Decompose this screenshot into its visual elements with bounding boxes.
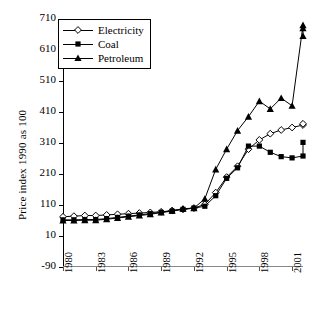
y-tick-label: 210 [40,166,57,178]
data-point [245,113,252,120]
data-point [289,155,294,160]
legend-item-coal: Coal [63,37,144,51]
legend-label: Coal [93,38,119,50]
legend-marker-icon [63,38,93,50]
y-tick-label: -90 [41,259,56,271]
data-point [268,150,273,155]
data-point [213,193,218,198]
data-point [278,127,285,134]
data-point [278,94,285,101]
data-point [235,165,240,170]
data-point [256,98,263,105]
y-tick-label: 110 [40,197,56,209]
y-axis-title-text: Price index 1990 as 100 [16,80,28,220]
legend-item-petroleum: Petroleum [63,51,144,65]
data-point [300,153,305,158]
y-axis-title: Price index 1990 as 100 [2,0,14,80]
y-tick-label: 310 [40,135,57,147]
data-point [202,204,207,209]
data-point [299,32,306,39]
data-point [223,146,230,153]
data-point [212,166,219,173]
data-point [300,140,305,145]
y-tick-label: 710 [40,11,57,23]
legend-marker-icon [63,52,93,64]
series-line [63,124,303,217]
data-point [257,144,262,149]
data-point [201,195,208,202]
data-point [279,154,284,159]
data-point [267,130,274,137]
y-tick-label: 510 [40,73,57,85]
data-point [246,144,251,149]
y-tick-label: 10 [45,228,56,240]
legend-label: Electricity [93,24,144,36]
legend-marker-icon [63,24,93,36]
legend-label: Petroleum [93,52,143,64]
legend-item-electricity: Electricity [63,23,144,37]
y-tick-label: 410 [40,104,57,116]
data-point [224,176,229,181]
price-index-line-chart: Price index 1990 as 100 7106105104103102… [0,0,313,325]
chart-legend: ElectricityCoalPetroleum [58,19,151,69]
data-point [289,124,296,131]
y-tick-label: 610 [40,42,57,54]
data-point [288,102,295,109]
